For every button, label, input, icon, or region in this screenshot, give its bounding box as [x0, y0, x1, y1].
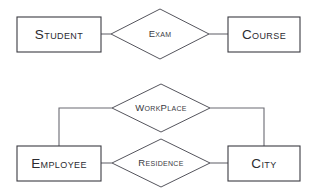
- relationship-residence[interactable]: Residence: [112, 139, 210, 187]
- entity-course[interactable]: Course: [228, 17, 300, 52]
- entity-city[interactable]: City: [228, 146, 300, 181]
- relationship-residence-label: Residence: [138, 157, 183, 168]
- connector-workplace-city: [210, 108, 264, 146]
- relationship-exam-label: Exam: [149, 28, 172, 39]
- entity-employee[interactable]: Employee: [17, 146, 101, 181]
- relationship-workplace[interactable]: WorkPlace: [112, 84, 210, 132]
- entity-course-label: Course: [242, 27, 286, 42]
- connector-employee-workplace: [59, 108, 112, 146]
- entity-student[interactable]: Student: [17, 17, 101, 52]
- relationship-exam[interactable]: Exam: [111, 9, 209, 59]
- relationship-workplace-label: WorkPlace: [135, 102, 186, 113]
- er-diagram-surface: Student Course Employee City Exam WorkPl…: [0, 0, 314, 191]
- er-diagram-canvas: Student Course Employee City Exam WorkPl…: [0, 0, 314, 191]
- entity-employee-label: Employee: [31, 156, 87, 171]
- entity-student-label: Student: [35, 27, 83, 42]
- entity-city-label: City: [251, 156, 276, 171]
